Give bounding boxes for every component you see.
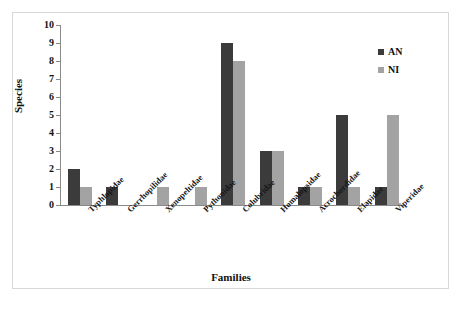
x-tick-label: Elapidae [355, 207, 362, 214]
x-tick-label: Colubridae [240, 207, 247, 214]
y-tick-mark [56, 43, 60, 44]
legend-item-ni: NI [378, 62, 438, 77]
x-tick-label: Pythonidae [201, 207, 208, 214]
y-tick-mark [56, 187, 60, 188]
y-tick-label: 1 [49, 180, 54, 193]
y-tick-mark [56, 61, 60, 62]
y-tick-label: 3 [49, 144, 54, 157]
x-tick-label: Xenopeltidae [163, 207, 170, 214]
y-tick-label: 8 [49, 54, 54, 67]
x-tick-label: Acrochordidae [316, 207, 323, 214]
y-tick-mark [56, 205, 60, 206]
x-axis-line [60, 205, 405, 206]
bar-an [68, 169, 80, 205]
y-tick-mark [56, 97, 60, 98]
bar-ni [272, 151, 284, 205]
y-tick-label: 4 [49, 126, 54, 139]
y-tick-label: 5 [49, 108, 54, 121]
x-axis-tick-labels: TyphlopidaeGerrhopilidaeXenopeltidaePyth… [61, 207, 406, 265]
bar-group [61, 25, 99, 205]
y-tick-0: 0 [60, 205, 61, 206]
bar-group [253, 25, 291, 205]
legend-swatch-icon-ni [378, 67, 384, 73]
bar-group [214, 25, 252, 205]
x-tick-label: Homalopsidae [278, 207, 285, 214]
y-tick-mark [56, 115, 60, 116]
bar-ni [387, 115, 399, 205]
chart-figure: Species 012345678910 TyphlopidaeGerrhopi… [0, 0, 462, 310]
x-tick-label: Gerrhopilidae [125, 207, 132, 214]
y-axis-title: Species [12, 79, 24, 113]
y-tick-label: 0 [49, 198, 54, 211]
y-tick-mark [56, 25, 60, 26]
y-tick-label: 2 [49, 162, 54, 175]
y-tick-mark [56, 169, 60, 170]
legend-label-an: AN [388, 46, 402, 57]
y-tick-label: 6 [49, 90, 54, 103]
x-tick-label: Viperidae [393, 207, 400, 214]
y-tick-label: 7 [49, 72, 54, 85]
legend-label-ni: NI [388, 64, 399, 75]
legend-swatch-icon-an [378, 49, 384, 55]
y-tick-label: 10 [44, 18, 54, 31]
x-tick-label: Typhlopidae [86, 207, 93, 214]
y-tick-mark [56, 133, 60, 134]
chart-legend: AN NI [378, 44, 438, 80]
y-tick-label: 9 [49, 36, 54, 49]
y-tick-mark [56, 151, 60, 152]
legend-item-an: AN [378, 44, 438, 59]
y-tick-mark [56, 79, 60, 80]
x-axis-title: Families [0, 271, 462, 283]
